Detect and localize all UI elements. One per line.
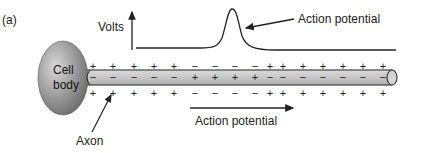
charge-sign: + bbox=[318, 88, 328, 99]
panel-label: (a) bbox=[2, 13, 17, 27]
charge-sign: + bbox=[149, 88, 159, 99]
charge-sign: + bbox=[298, 88, 308, 99]
charge-sign: − bbox=[210, 88, 220, 99]
charge-sign: + bbox=[88, 88, 98, 99]
charge-sign: + bbox=[358, 88, 368, 99]
charge-sign: + bbox=[190, 72, 200, 83]
charge-sign: + bbox=[250, 72, 260, 83]
charge-sign: − bbox=[338, 72, 348, 83]
charge-sign: − bbox=[169, 72, 179, 83]
axon-label: Axon bbox=[76, 134, 103, 148]
charge-sign: − bbox=[129, 72, 139, 83]
charge-sign: − bbox=[230, 88, 240, 99]
charge-sign: − bbox=[265, 72, 275, 83]
charge-sign: − bbox=[298, 72, 308, 83]
action-potential-curve-label: Action potential bbox=[298, 12, 380, 26]
charge-sign: − bbox=[358, 72, 368, 83]
charge-sign: + bbox=[108, 88, 118, 99]
propagation-arrow-label: Action potential bbox=[195, 114, 277, 128]
charge-sign: + bbox=[338, 88, 348, 99]
charge-sign: + bbox=[265, 88, 275, 99]
charge-sign: − bbox=[250, 88, 260, 99]
cell-body-label-line1: Cell bbox=[53, 63, 74, 77]
charge-sign: − bbox=[88, 72, 98, 83]
charge-sign: + bbox=[210, 72, 220, 83]
charge-sign: + bbox=[230, 72, 240, 83]
charge-sign: + bbox=[129, 88, 139, 99]
charge-sign: + bbox=[378, 88, 388, 99]
charge-sign: − bbox=[378, 72, 388, 83]
axon-pointer-arrow bbox=[92, 95, 111, 132]
charge-sign: − bbox=[190, 88, 200, 99]
cell-body-label-line2: body bbox=[53, 78, 79, 92]
action-potential-pointer-arrow bbox=[246, 19, 294, 28]
charge-sign: + bbox=[169, 88, 179, 99]
charge-sign: + bbox=[278, 88, 288, 99]
volts-axis-label: Volts bbox=[98, 20, 124, 34]
charge-sign: − bbox=[108, 72, 118, 83]
charge-sign: − bbox=[278, 72, 288, 83]
charge-sign: − bbox=[149, 72, 159, 83]
charge-sign: − bbox=[318, 72, 328, 83]
